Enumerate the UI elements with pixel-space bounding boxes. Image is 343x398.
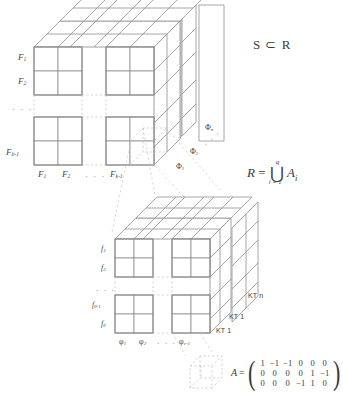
matrix-cell: 0 [281, 378, 294, 388]
upper-row-label-1: F1 [18, 53, 26, 63]
matrix-cell: 0 [268, 368, 281, 378]
upper-depth-label-2: Φ2 [190, 148, 198, 157]
lower-block-r1c2 [172, 239, 210, 277]
equation-union-lhs: R [247, 165, 255, 180]
lower-col-label-last: φv-1 [179, 338, 190, 347]
kt-label-3: KT n [248, 292, 263, 299]
upper-depth-label-last: Φn [205, 124, 213, 133]
matrix-row: 0 0 0 −1 1 0 [257, 378, 331, 388]
lower-row-label-2: f2 [101, 264, 106, 273]
lower-block-r1c1 [115, 239, 153, 277]
upper-col-label-2: F2 [62, 170, 70, 180]
kt-label-2: KT 1 [229, 313, 244, 320]
upper-cube-geometry [34, 0, 206, 165]
matrix-cell: 0 [257, 368, 268, 378]
matrix-a-equals: = [239, 367, 245, 378]
matrix-left-paren: ( [248, 356, 255, 389]
upper-row-label-2: F2 [18, 77, 26, 87]
matrix-cell: 1 [307, 378, 318, 388]
matrix-cell: 0 [281, 368, 294, 378]
union-lower-limit: i = 1 [269, 179, 282, 186]
lower-row-label-1: f1 [101, 245, 106, 254]
lower-slab-kt-mid [232, 214, 246, 322]
matrix-cell: 0 [318, 358, 331, 368]
lower-col-label-2: φ2 [139, 338, 146, 347]
upper-block-r2c1 [34, 117, 82, 165]
equation-union: R = q ⋃ i = 1 Ai [247, 166, 297, 182]
kt-label-1: KT 1 [216, 327, 231, 334]
lower-row-label-3: fθ-1 [92, 301, 101, 310]
matrix-cell: 0 [257, 378, 268, 388]
matrix-row: 0 0 0 0 1 −1 [257, 368, 331, 378]
equation-subset: S ⊂ R [253, 38, 291, 51]
union-operand: Ai [287, 165, 297, 180]
upper-cube-front-face [34, 47, 154, 165]
lower-zoom-connector [172, 333, 212, 356]
matrix-cell: −1 [268, 358, 281, 368]
upper-row-ellipsis: · · · [12, 105, 33, 114]
matrix-a: A = ( 1 −1 −1 0 0 0 0 0 0 0 1 −1 0 0 0 −… [231, 356, 343, 389]
upper-block-r1c1 [34, 47, 82, 95]
lower-row-ellipsis: · · · [96, 287, 116, 295]
matrix-a-name: A [231, 367, 237, 378]
equation-subset-right: R [282, 37, 292, 52]
lower-col-label-1: φ1 [119, 338, 126, 347]
upper-slab-phi-n [182, 4, 196, 136]
equation-subset-relation: ⊂ [265, 37, 277, 52]
upper-depth-label-1: Φ1 [176, 163, 184, 172]
lower-col-ellipsis: · · · [157, 340, 177, 348]
matrix-cell: 0 [268, 378, 281, 388]
matrix-cell: −1 [294, 378, 307, 388]
lower-cube-top-face [115, 197, 252, 239]
equation-union-eq: = [258, 165, 265, 180]
matrix-cell: −1 [281, 358, 294, 368]
lower-cube-front-face [115, 239, 210, 333]
matrix-cell: 0 [307, 358, 318, 368]
matrix-cell: 0 [318, 378, 331, 388]
equation-subset-left: S [253, 37, 261, 52]
matrix-right-paren: ) [333, 356, 340, 389]
matrix-cell: −1 [318, 368, 331, 378]
lower-row-label-4: fθ [101, 320, 106, 329]
lower-cube [115, 197, 258, 356]
upper-block-r1c2 [106, 47, 154, 95]
matrix-cell: 0 [294, 358, 307, 368]
union-operator: q ⋃ i = 1 [270, 168, 283, 181]
unit-cube-icon [190, 356, 222, 388]
upper-col-ellipsis: · · · [85, 172, 106, 181]
upper-row-label-last: Fb-1 [6, 148, 19, 158]
matrix-cell: 0 [294, 368, 307, 378]
matrix-cell: 1 [307, 368, 318, 378]
upper-col-label-1: F1 [38, 170, 46, 180]
matrix-row: 1 −1 −1 0 0 0 [257, 358, 331, 368]
matrix-a-grid: 1 −1 −1 0 0 0 0 0 0 0 1 −1 0 0 0 −1 1 0 [257, 358, 331, 388]
upper-col-label-last: Fk-1 [110, 170, 123, 180]
matrix-cell: 1 [257, 358, 268, 368]
lower-block-r2c1 [115, 295, 153, 333]
lower-block-r2c2 [172, 295, 210, 333]
